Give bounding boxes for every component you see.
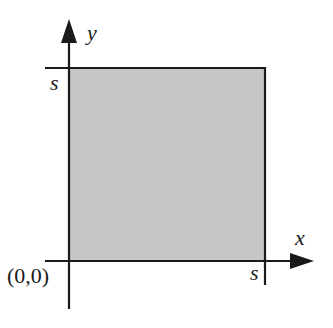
coordinate-square-diagram: y s x s (0,0)	[0, 0, 333, 328]
x-axis-label: x	[294, 225, 305, 250]
x-axis-arrow-icon	[290, 253, 314, 269]
y-side-label: s	[50, 70, 59, 95]
shaded-square	[69, 68, 265, 261]
origin-label: (0,0)	[7, 263, 49, 288]
y-axis-label: y	[85, 20, 97, 45]
x-side-label: s	[250, 260, 259, 285]
y-axis-arrow-icon	[61, 19, 77, 43]
